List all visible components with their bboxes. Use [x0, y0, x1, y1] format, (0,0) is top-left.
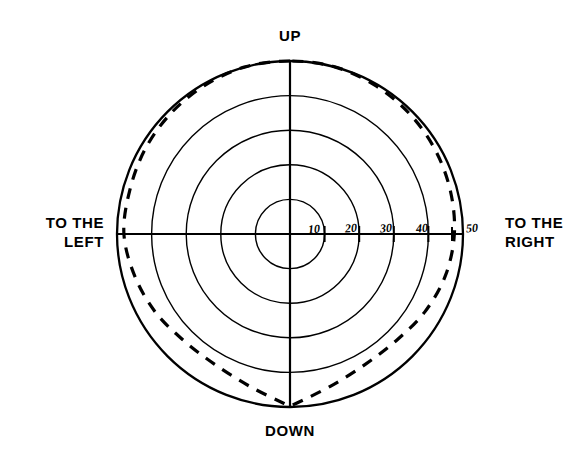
radial-tick-label-50: 50 — [465, 221, 478, 237]
radial-tick-label-20: 20 — [344, 221, 357, 237]
polar-chart-figure: UP DOWN TO THE LEFT TO THE RIGHT 1020304… — [0, 0, 573, 469]
cardinal-label-up: UP — [248, 26, 332, 45]
cardinal-label-down: DOWN — [248, 421, 332, 440]
cardinal-label-right: TO THE RIGHT — [505, 213, 573, 251]
radial-tick-label-10: 10 — [307, 222, 320, 238]
radial-tick-label-40: 40 — [415, 221, 428, 237]
cardinal-label-left: TO THE LEFT — [2, 213, 104, 251]
cardinal-axes — [117, 61, 463, 407]
radial-tick-label-30: 30 — [379, 221, 392, 237]
